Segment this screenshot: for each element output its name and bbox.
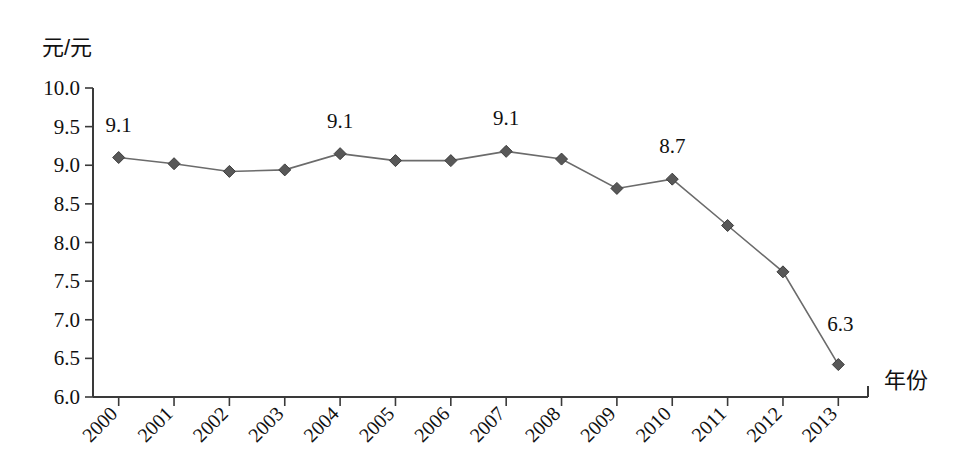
x-tick-label: 2012 <box>742 402 786 446</box>
data-value-label: 6.3 <box>827 312 853 336</box>
chart-canvas: 元/元 年份 6.06.57.07.58.08.59.09.510.0 2000… <box>0 0 953 474</box>
x-axis-ticks <box>119 397 839 406</box>
x-axis-title: 年份 <box>884 368 928 393</box>
x-tick-label: 2008 <box>521 402 565 446</box>
y-tick-label: 6.0 <box>54 385 80 409</box>
y-tick-label: 6.5 <box>54 346 80 370</box>
y-tick-label: 7.5 <box>54 269 80 293</box>
data-point-marker <box>279 164 291 176</box>
data-point-marker <box>168 158 180 170</box>
data-value-labels: 9.19.19.18.76.3 <box>106 106 854 335</box>
y-tick-label: 9.0 <box>54 153 80 177</box>
x-tick-label: 2007 <box>465 402 509 446</box>
x-tick-label: 2010 <box>631 402 675 446</box>
data-point-markers <box>113 145 845 370</box>
y-tick-label: 8.5 <box>54 192 80 216</box>
line-chart: 元/元 年份 6.06.57.07.58.08.59.09.510.0 2000… <box>0 0 953 474</box>
y-tick-label: 9.5 <box>54 115 80 139</box>
data-point-marker <box>445 155 457 167</box>
data-point-marker <box>500 145 512 157</box>
data-value-label: 9.1 <box>106 113 132 137</box>
data-point-marker <box>389 155 401 167</box>
x-tick-label: 2001 <box>133 402 177 446</box>
x-tick-label: 2011 <box>687 402 730 445</box>
y-tick-label: 7.0 <box>54 308 80 332</box>
x-tick-label: 2013 <box>797 402 841 446</box>
x-tick-label: 2005 <box>354 402 398 446</box>
data-point-marker <box>611 182 623 194</box>
data-value-label: 8.7 <box>659 134 685 158</box>
data-value-label: 9.1 <box>493 106 519 130</box>
data-point-marker <box>556 153 568 165</box>
x-tick-label: 2000 <box>78 402 122 446</box>
x-tick-label: 2009 <box>576 402 620 446</box>
y-axis-title: 元/元 <box>42 35 92 60</box>
x-tick-label: 2004 <box>299 402 343 446</box>
y-tick-label: 8.0 <box>54 231 80 255</box>
x-tick-label: 2002 <box>188 402 232 446</box>
data-point-marker <box>113 152 125 164</box>
x-tick-label: 2003 <box>244 402 288 446</box>
x-tick-label: 2006 <box>410 402 454 446</box>
y-axis-ticks: 6.06.57.07.58.08.59.09.510.0 <box>43 76 93 409</box>
series-line <box>119 151 839 364</box>
data-value-label: 9.1 <box>327 109 353 133</box>
x-axis-tick-labels: 2000200120022003200420052006200720082009… <box>78 402 841 446</box>
data-point-marker <box>223 165 235 177</box>
data-point-marker <box>832 359 844 371</box>
data-point-marker <box>334 148 346 160</box>
y-tick-label: 10.0 <box>43 76 80 100</box>
